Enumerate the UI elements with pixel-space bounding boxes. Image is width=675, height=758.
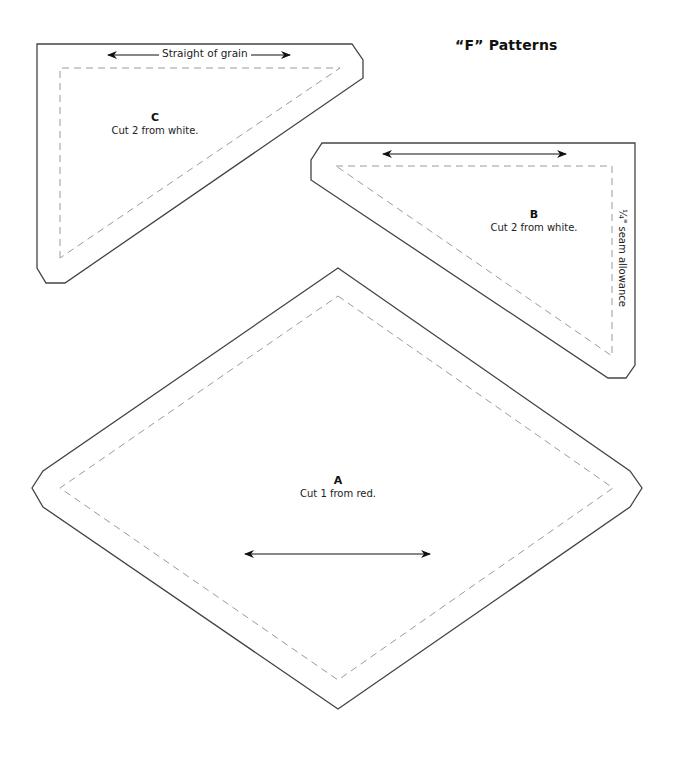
page-title: “F” Patterns — [455, 37, 558, 53]
piece-b-label: B Cut 2 from white. — [474, 208, 594, 234]
seam-allowance-label: ¼" seam allowance — [617, 206, 628, 310]
piece-c — [37, 44, 363, 283]
piece-c-instruction: Cut 2 from white. — [112, 125, 199, 136]
piece-b-seam-line — [336, 166, 612, 356]
piece-a-label: A Cut 1 from red. — [278, 474, 398, 500]
piece-c-seam-line — [60, 68, 340, 258]
piece-c-letter: C — [95, 111, 215, 124]
piece-c-label: C Cut 2 from white. — [95, 111, 215, 137]
piece-b-instruction: Cut 2 from white. — [491, 222, 578, 233]
piece-c-grain-label: Straight of grain — [159, 47, 251, 59]
piece-a-letter: A — [278, 474, 398, 487]
piece-b — [311, 143, 635, 378]
piece-a-instruction: Cut 1 from red. — [300, 488, 376, 499]
piece-b-cut-line — [311, 143, 635, 378]
piece-b-letter: B — [474, 208, 594, 221]
